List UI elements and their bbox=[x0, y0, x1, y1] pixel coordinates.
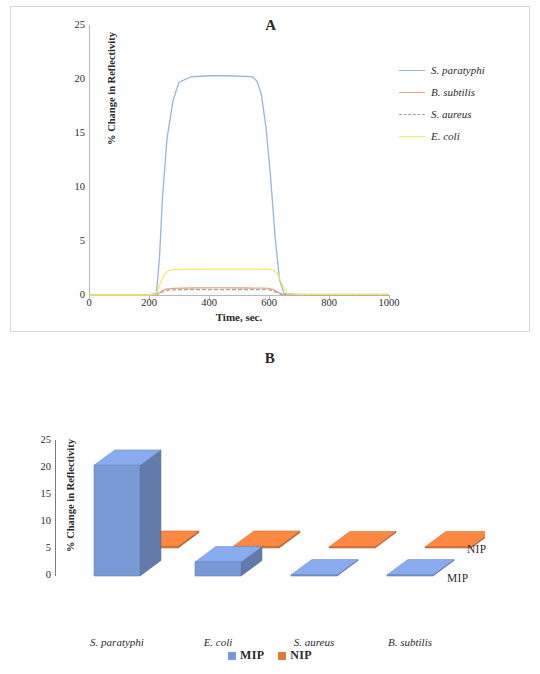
panel-b-row-label-nip: NIP bbox=[467, 543, 486, 555]
bar-nip-e-coli-top bbox=[233, 531, 300, 546]
legend-line-icon-b-subtilis bbox=[399, 92, 425, 93]
bar-mip-s-aureus-front bbox=[291, 575, 337, 576]
panel-b-legend: MIP NIP bbox=[0, 648, 540, 663]
bar-nip-s-aureus-front bbox=[329, 547, 375, 548]
legend-label-b-subtilis: B. subtilis bbox=[431, 86, 475, 98]
panel-b-ytick-15: 15 bbox=[23, 489, 51, 499]
legend-swatch-icon-nip bbox=[278, 652, 286, 660]
legend-line-icon-e-coli bbox=[399, 136, 425, 137]
legend-item-s-paratyphi[interactable]: S. paratyphi bbox=[399, 59, 529, 81]
bar-mip-s-aureus-top bbox=[291, 560, 358, 575]
panel-a-ytick-10: 10 bbox=[55, 182, 85, 192]
legend-item-mip[interactable]: MIP bbox=[228, 648, 264, 663]
panel-a-y-axis-label: % Change in Reflectivity bbox=[106, 9, 117, 169]
legend-swatch-icon-mip bbox=[228, 652, 236, 660]
legend-item-b-subtilis[interactable]: B. subtilis bbox=[399, 81, 529, 103]
bar-mip-s-paratyphi-front bbox=[94, 465, 140, 576]
legend-line-icon-s-paratyphi bbox=[399, 70, 425, 71]
panel-b-ytick-5: 5 bbox=[23, 543, 51, 553]
legend-label-e-coli: E. coli bbox=[431, 130, 460, 142]
legend-label-mip: MIP bbox=[240, 648, 264, 663]
panel-b-ytick-25: 25 bbox=[23, 435, 51, 445]
panel-a-figure: A 25 20 15 10 5 0 0 200 400 600 800 1000 bbox=[10, 6, 530, 332]
legend-item-s-aureus[interactable]: S. aureus bbox=[399, 103, 529, 125]
panel-b-category-s-aureus: S. aureus bbox=[259, 636, 369, 648]
panel-b-ytick-20: 20 bbox=[23, 462, 51, 472]
legend-item-e-coli[interactable]: E. coli bbox=[399, 125, 529, 147]
panel-b-plot-area: 25 20 15 10 5 0 S. paratyphi E. coli S. … bbox=[55, 440, 485, 600]
panel-b-ytick-10: 10 bbox=[23, 516, 51, 526]
bar-mip-s-paratyphi-side bbox=[140, 450, 161, 576]
panel-a-ytick-15: 15 bbox=[55, 128, 85, 138]
panel-a-legend: S. paratyphi B. subtilis S. aureus E. co… bbox=[399, 59, 529, 147]
panel-a-ytick-5: 5 bbox=[55, 236, 85, 246]
panel-b-ytick-0: 0 bbox=[23, 570, 51, 580]
bar-mip-e-coli-front bbox=[195, 562, 241, 576]
series-line-s-paratyphi bbox=[89, 76, 389, 295]
panel-b-category-s-paratyphi: S. paratyphi bbox=[62, 636, 172, 648]
legend-line-icon-s-aureus bbox=[399, 114, 425, 115]
series-line-e-coli bbox=[89, 269, 389, 295]
panel-b-row-label-mip: MIP bbox=[447, 572, 468, 584]
panel-a-ytick-25: 25 bbox=[55, 20, 85, 30]
legend-label-s-paratyphi: S. paratyphi bbox=[431, 64, 485, 76]
panel-a-curves bbox=[89, 25, 391, 299]
panel-b-bars bbox=[55, 440, 485, 630]
panel-b-category-e-coli: E. coli bbox=[163, 636, 273, 648]
panel-b-title: B bbox=[0, 350, 540, 367]
panel-b-y-axis-label: % Change in Reflectivity bbox=[65, 411, 76, 581]
legend-label-s-aureus: S. aureus bbox=[431, 108, 472, 120]
bar-nip-b-subtilis-front bbox=[425, 547, 471, 548]
bar-mip-b-subtilis-top bbox=[387, 560, 454, 575]
legend-item-nip[interactable]: NIP bbox=[278, 648, 312, 663]
bar-mip-b-subtilis-front bbox=[387, 575, 433, 576]
panel-b-category-b-subtilis: B. subtilis bbox=[355, 636, 465, 648]
panel-a-plot-area: 25 20 15 10 5 0 0 200 400 600 800 1000 bbox=[89, 25, 389, 297]
bar-nip-s-aureus-top bbox=[329, 532, 396, 547]
panel-b-figure: 25 20 15 10 5 0 S. paratyphi E. coli S. … bbox=[0, 400, 540, 674]
legend-label-nip: NIP bbox=[290, 648, 312, 663]
panel-a-ytick-20: 20 bbox=[55, 74, 85, 84]
panel-a-x-axis-label: Time, sec. bbox=[89, 311, 389, 323]
